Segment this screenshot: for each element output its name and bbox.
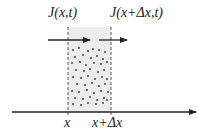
x-left-label: x [64,116,70,130]
flux-diagram: J(x,t) J(x+Δx,t) x x+Δx [0,0,207,133]
flux-in-label: J(x,t) [48,6,77,20]
flux-out-label: J(x+Δx,t) [110,6,163,20]
diagram-canvas [0,0,207,133]
x-right-label: x+Δx [92,116,122,130]
